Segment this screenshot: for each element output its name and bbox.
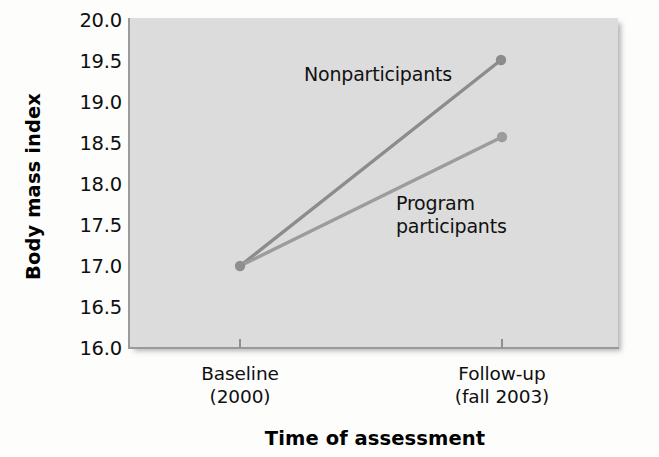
- y-axis-title: Body mass index: [22, 67, 45, 307]
- data-point-baseline: [235, 261, 245, 271]
- series-label-program-participants: Program participants: [396, 192, 507, 238]
- y-tick-label: 20.0: [50, 11, 122, 31]
- y-tick-label: 18.5: [50, 134, 122, 154]
- y-axis-line: [128, 18, 130, 349]
- plot-area: Nonparticipants Program participants: [129, 18, 618, 348]
- x-axis-title: Time of assessment: [190, 427, 560, 450]
- x-tick-label-baseline-line2: (2000): [160, 385, 320, 408]
- series-label-line1: Program participants: [396, 192, 507, 237]
- x-axis-line: [128, 347, 619, 349]
- data-point-participants-followup: [497, 132, 507, 142]
- x-tick-label-followup-line2: (fall 2003): [422, 385, 582, 408]
- series-label-nonparticipants: Nonparticipants: [304, 63, 452, 86]
- y-tick-label: 16.5: [50, 298, 122, 318]
- y-tick-label: 17.5: [50, 216, 122, 236]
- chart-figure: Body mass index 20.0 19.5 19.0 18.5 18.0…: [0, 0, 659, 457]
- x-tick-mark-baseline: [239, 339, 241, 348]
- x-tick-label-followup-line1: Follow-up: [422, 362, 582, 385]
- y-tick-label: 17.0: [50, 257, 122, 277]
- x-tick-mark-followup: [501, 339, 503, 348]
- y-tick-label: 16.0: [50, 339, 122, 359]
- data-point-nonparticipants-followup: [496, 55, 506, 65]
- x-tick-label-baseline: Baseline (2000): [160, 362, 320, 408]
- y-tick-label: 18.0: [50, 175, 122, 195]
- x-tick-label-baseline-line1: Baseline: [160, 362, 320, 385]
- y-axis-tick-labels: 20.0 19.5 19.0 18.5 18.0 17.5 17.0 16.5 …: [44, 0, 122, 457]
- y-tick-label: 19.0: [50, 93, 122, 113]
- x-tick-label-followup: Follow-up (fall 2003): [422, 362, 582, 408]
- y-tick-label: 19.5: [50, 52, 122, 72]
